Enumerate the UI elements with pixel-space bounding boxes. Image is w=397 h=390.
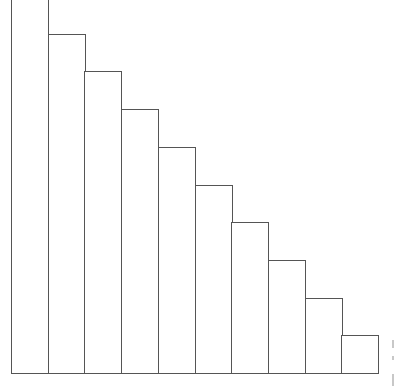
bar-2 bbox=[48, 34, 86, 373]
bar-4 bbox=[121, 109, 159, 373]
cropped-edge-artifact bbox=[392, 356, 394, 360]
bar-5 bbox=[158, 147, 196, 373]
x-axis-baseline bbox=[11, 373, 379, 374]
bar-3 bbox=[84, 71, 122, 373]
bar-8 bbox=[268, 260, 306, 373]
cropped-edge-artifact bbox=[392, 374, 394, 386]
bar-9 bbox=[305, 298, 343, 373]
bar-7 bbox=[231, 222, 269, 373]
bar-chart bbox=[0, 0, 397, 390]
bar-1 bbox=[11, 0, 49, 373]
bar-10 bbox=[341, 335, 379, 373]
bar-6 bbox=[195, 185, 233, 374]
cropped-edge-artifact bbox=[392, 340, 394, 348]
